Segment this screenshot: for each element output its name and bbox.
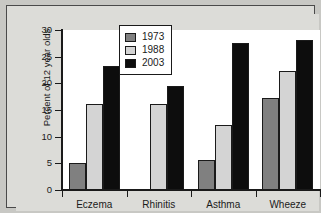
y-tick-label: 15 (16, 105, 52, 115)
bar (215, 125, 232, 190)
figure-frame: Percent of 12 year olds 051015202530 Ecz… (6, 5, 315, 208)
x-category-label: Wheeze (256, 199, 321, 210)
y-tick-mark (55, 30, 62, 31)
legend-item-label: 2003 (142, 58, 164, 68)
y-tick-label-text: 0 (18, 185, 52, 195)
chart-legend: 197319882003 (119, 25, 172, 75)
legend-swatch-icon (125, 46, 136, 55)
bar (262, 98, 279, 190)
bar (167, 86, 184, 190)
y-tick-label-text: 25 (18, 52, 52, 62)
y-tick-mark (55, 190, 62, 191)
legend-item: 1973 (125, 31, 164, 43)
legend-swatch-icon (125, 59, 136, 68)
bar (279, 71, 296, 190)
y-tick-label-text: 30 (18, 25, 52, 35)
legend-swatch-icon (125, 33, 136, 42)
y-tick-mark (55, 57, 62, 58)
bar (198, 160, 215, 190)
legend-item: 1988 (125, 44, 164, 56)
y-tick-label: 25 (16, 52, 52, 62)
y-tick-label: 10 (16, 132, 52, 142)
legend-item-label: 1988 (142, 45, 164, 55)
bar (232, 43, 249, 190)
y-tick-label: 5 (16, 158, 52, 168)
x-category-label: Eczema (62, 199, 127, 210)
x-tick-mark (62, 191, 63, 197)
y-tick-mark (55, 163, 62, 164)
y-tick-mark (55, 110, 62, 111)
x-category-label: Asthma (191, 199, 256, 210)
legend-item-label: 1973 (142, 32, 164, 42)
y-tick-mark (55, 83, 62, 84)
y-tick-label: 30 (16, 25, 52, 35)
chart-figure: Percent of 12 year olds 051015202530 Ecz… (0, 0, 321, 213)
x-tick-mark (127, 191, 128, 197)
bar (103, 66, 120, 190)
bar (86, 104, 103, 190)
y-tick-label-text: 20 (18, 78, 52, 88)
y-tick-label-text: 15 (18, 105, 52, 115)
x-tick-mark (191, 191, 192, 197)
bar (296, 40, 313, 190)
y-tick-label: 20 (16, 78, 52, 88)
x-category-label: Rhinitis (127, 199, 192, 210)
y-tick-label-text: 10 (18, 132, 52, 142)
bar (150, 104, 167, 190)
y-tick-label: 0 (16, 185, 52, 195)
x-tick-mark (256, 191, 257, 197)
figure-canvas: Percent of 12 year olds 051015202530 Ecz… (16, 14, 319, 211)
bar (69, 163, 86, 190)
y-tick-mark (55, 137, 62, 138)
y-tick-label-text: 5 (18, 158, 52, 168)
legend-item: 2003 (125, 57, 164, 69)
